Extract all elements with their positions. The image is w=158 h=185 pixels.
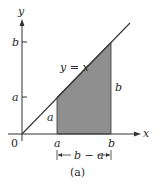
line-label: y = x	[59, 61, 89, 74]
arrow-right-icon	[106, 153, 110, 157]
region-left-height-label: a	[47, 111, 54, 124]
y-axis-arrow-icon	[20, 19, 25, 26]
x-tick-label-b: b	[108, 137, 115, 150]
arrow-left-icon	[58, 153, 62, 157]
figure-caption: (a)	[70, 166, 85, 179]
y-tick-label-b: b	[12, 36, 19, 49]
origin-label: 0	[11, 137, 18, 150]
x-axis-label: x	[143, 127, 150, 140]
shaded-region	[57, 42, 111, 134]
trapezoid-area-diagram: y x 0 b a a b y = x a b b − a (a)	[0, 0, 158, 185]
y-tick-label-a: a	[12, 91, 19, 104]
region-right-height-label: b	[115, 81, 122, 94]
x-tick-label-a: a	[54, 137, 61, 150]
y-axis-label: y	[17, 5, 25, 18]
width-label: b − a	[74, 149, 104, 162]
x-axis-arrow-icon	[134, 132, 141, 137]
